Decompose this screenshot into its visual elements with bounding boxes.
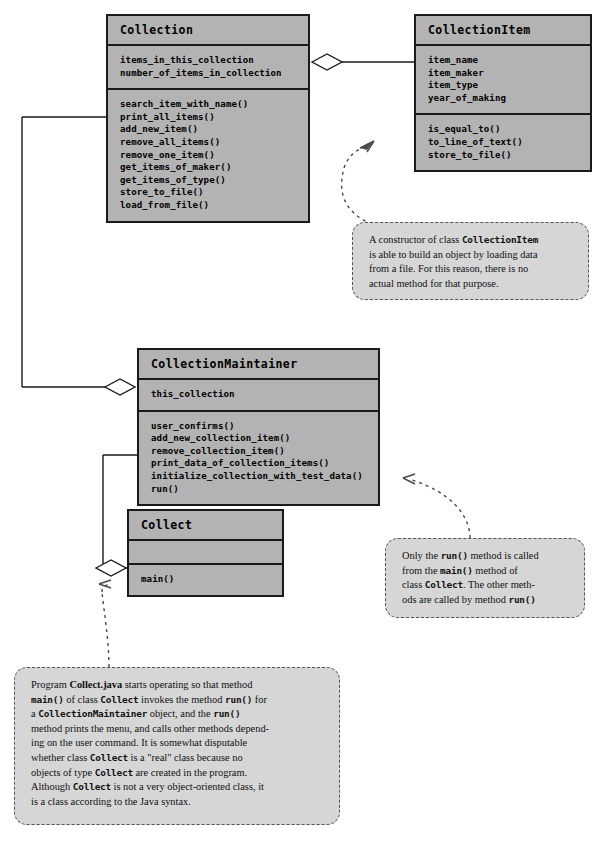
uml-diagram-canvas: Collection items_in_this_collection numb…: [0, 0, 601, 842]
note-text: A constructor of class: [369, 234, 462, 245]
note-code-token: Collect: [90, 752, 128, 763]
note-line: from the main() method of: [402, 564, 570, 579]
method: print_data_of_collection_items(): [151, 457, 378, 470]
note-code-token: Collect: [95, 767, 133, 778]
attribute: year_of_making: [428, 92, 590, 105]
uml-class-collectionmaintainer[interactable]: CollectionMaintainer this_collection use…: [137, 348, 380, 506]
attributes-compartment-collect: [129, 541, 282, 565]
note-code-token: run(): [225, 694, 252, 705]
note-text: method of: [473, 565, 518, 576]
attribute: number_of_items_in_collection: [120, 67, 308, 80]
note-text: starts operating so that method: [122, 679, 252, 690]
note-text: . The other meth-: [463, 579, 535, 590]
note-anchor-collectionitem: [342, 141, 374, 224]
note-code-token: main(): [440, 565, 473, 576]
class-name-collectionmaintainer: CollectionMaintainer: [139, 350, 378, 380]
method: remove_collection_item(): [151, 445, 378, 458]
methods-compartment-collectionmaintainer: user_confirms() add_new_collection_item(…: [139, 412, 378, 505]
method: print_all_items(): [120, 111, 308, 124]
attributes-compartment-collectionitem: item_name item_maker item_type year_of_m…: [416, 46, 590, 115]
method: remove_one_item(): [120, 149, 308, 162]
method: is_equal_to(): [428, 123, 590, 136]
method: get_items_of_type(): [120, 174, 308, 187]
note-line: actual method for that purpose.: [369, 277, 574, 292]
method: store_to_file(): [428, 149, 590, 162]
note-text: method prints the menu, and calls other …: [31, 723, 269, 734]
class-name-collect: Collect: [129, 511, 282, 541]
note-text: Although: [31, 781, 73, 792]
note-text: is able to build an object by loading da…: [369, 249, 538, 260]
note-text: are created in the program.: [133, 767, 247, 778]
method: user_confirms(): [151, 420, 378, 433]
attribute: item_name: [428, 54, 590, 67]
note-line: is able to build an object by loading da…: [369, 248, 574, 263]
note-code-token: run(): [508, 594, 535, 605]
uml-class-collectionitem[interactable]: CollectionItem item_name item_maker item…: [414, 14, 592, 172]
note-anchor-collect: [99, 580, 111, 667]
note-text: Only the: [402, 550, 441, 561]
methods-compartment-collectionitem: is_equal_to() to_line_of_text() store_to…: [416, 115, 590, 170]
method: main(): [141, 573, 282, 586]
method: get_items_of_maker(): [120, 161, 308, 174]
note-collectionitem-constructor: A constructor of class CollectionItemis …: [352, 222, 589, 300]
note-line: main() of class Collect invokes the meth…: [31, 693, 325, 708]
note-code-token: run(): [213, 708, 240, 719]
note-text: ing on the user command. It is somewhat …: [31, 737, 247, 748]
note-line: Although Collect is not a very object-or…: [31, 780, 325, 795]
note-bold-token: Collect.java: [69, 679, 122, 690]
method: run(): [151, 483, 378, 496]
method: initialize_collection_with_test_data(): [151, 470, 378, 483]
note-line: objects of type Collect are created in t…: [31, 766, 325, 781]
note-text: actual method for that purpose.: [369, 278, 499, 289]
method: add_new_collection_item(): [151, 432, 378, 445]
note-text: Program: [31, 679, 69, 690]
note-text: from a file. For this reason, there is n…: [369, 263, 528, 274]
note-line: class Collect. The other meth-: [402, 578, 570, 593]
note-text: whether class: [31, 752, 90, 763]
class-name-collection: Collection: [108, 16, 308, 46]
note-text: is not a very object-oriented class, it: [111, 781, 264, 792]
note-line: ods are called by method run(): [402, 593, 570, 608]
attribute: item_maker: [428, 67, 590, 80]
attributes-compartment-collection: items_in_this_collection number_of_items…: [108, 46, 308, 90]
note-line: Program Collect.java starts operating so…: [31, 678, 325, 693]
uml-class-collection[interactable]: Collection items_in_this_collection numb…: [106, 14, 310, 223]
note-run-method: Only the run() method is calledfrom the …: [385, 538, 585, 618]
method: load_from_file(): [120, 199, 308, 212]
note-code-token: Collect: [100, 694, 138, 705]
note-code-token: CollectionMaintainer: [38, 708, 147, 719]
note-text: method is called: [468, 550, 539, 561]
note-text: is a "real" class because no: [128, 752, 243, 763]
methods-compartment-collection: search_item_with_name() print_all_items(…: [108, 90, 308, 220]
note-code-token: Collect: [73, 781, 111, 792]
class-name-collectionitem: CollectionItem: [416, 16, 590, 46]
note-line: a CollectionMaintainer object, and the r…: [31, 707, 325, 722]
aggregation-collection-collectionitem: [312, 54, 414, 70]
note-text: is a class according to the Java syntax.: [31, 796, 191, 807]
note-line: method prints the menu, and calls other …: [31, 722, 325, 737]
method: add_new_item(): [120, 123, 308, 136]
note-program-description: Program Collect.java starts operating so…: [14, 667, 340, 825]
note-code-token: Collect: [425, 579, 463, 590]
note-text: of class: [64, 694, 101, 705]
note-text: object, and the: [147, 708, 213, 719]
method: remove_all_items(): [120, 136, 308, 149]
note-line: A constructor of class CollectionItem: [369, 233, 574, 248]
note-line: is a class according to the Java syntax.: [31, 795, 325, 810]
attribute: item_type: [428, 79, 590, 92]
note-anchor-maintainer: [403, 474, 470, 538]
note-text: objects of type: [31, 767, 95, 778]
note-line: ing on the user command. It is somewhat …: [31, 736, 325, 751]
note-text: ods are called by method: [402, 594, 508, 605]
note-code-token: run(): [441, 550, 468, 561]
note-text: invokes the method: [138, 694, 225, 705]
note-text: for: [252, 694, 267, 705]
note-code-token: CollectionItem: [462, 234, 538, 245]
note-line: Only the run() method is called: [402, 549, 570, 564]
note-text: from the: [402, 565, 440, 576]
method: store_to_file(): [120, 186, 308, 199]
method: to_line_of_text(): [428, 136, 590, 149]
note-line: from a file. For this reason, there is n…: [369, 262, 574, 277]
methods-compartment-collect: main(): [129, 565, 282, 595]
uml-class-collect[interactable]: Collect main(): [127, 509, 284, 597]
